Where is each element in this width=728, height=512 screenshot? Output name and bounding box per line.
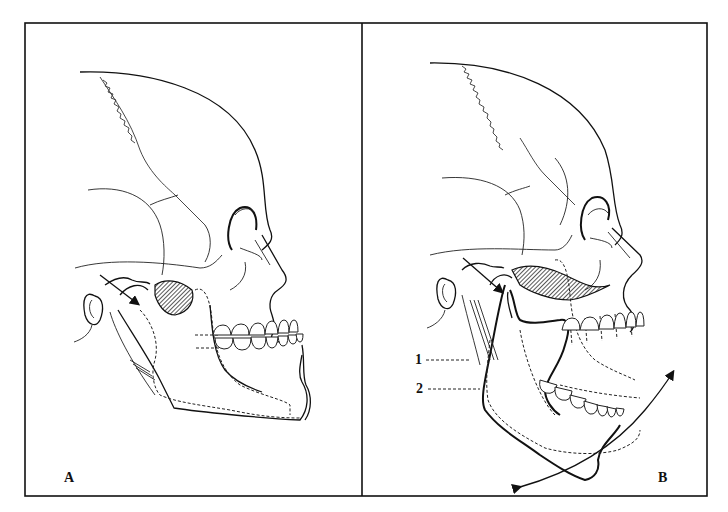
figure-illustration (0, 0, 728, 512)
lower-teeth-b (540, 380, 624, 417)
panel-label-b: B (658, 470, 667, 486)
panel-label-a: A (64, 470, 74, 486)
upper-teeth-a (213, 320, 298, 335)
upper-teeth-b (562, 312, 644, 330)
panel-b-skull (426, 63, 673, 487)
figure: A B 1 2 (0, 0, 728, 512)
arrow-icon (100, 275, 138, 304)
figure-frame (25, 23, 707, 496)
callout-label-2: 2 (416, 381, 423, 397)
panel-a-skull (74, 72, 310, 420)
lower-teeth-a (215, 334, 303, 350)
callout-label-1: 1 (415, 352, 422, 368)
